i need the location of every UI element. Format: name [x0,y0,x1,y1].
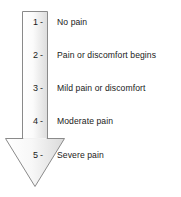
level-number: 4 [26,114,38,128]
level-number: 1 [26,15,38,29]
level-description: Mild pain or discomfort [57,81,145,95]
level-tick-icon: - [40,114,44,128]
level-tick-icon: - [40,15,44,29]
level-tick-icon: - [40,48,44,62]
level-number: 3 [26,81,38,95]
level-tick-icon: - [40,148,44,162]
level-description: Pain or discomfort begins [57,48,156,62]
down-arrow-icon [0,0,181,197]
level-tick-icon: - [40,81,44,95]
level-description: No pain [57,15,87,29]
level-description: Moderate pain [57,114,113,128]
level-number: 5 [26,148,38,162]
level-number: 2 [26,48,38,62]
pain-scale-figure: 1 - No pain 2 - Pain or discomfort begin… [0,0,181,197]
arrow-head [6,139,65,187]
level-description: Severe pain [57,148,104,162]
